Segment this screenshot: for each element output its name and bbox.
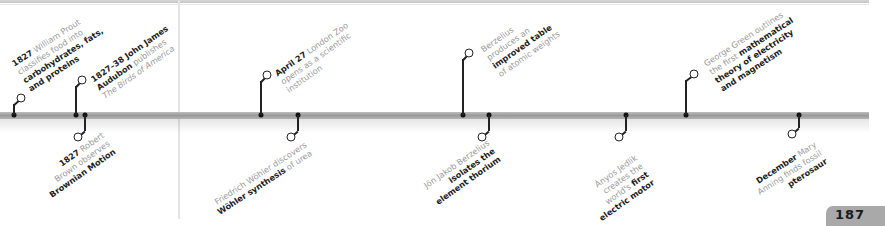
- event-label: Friedrich Wöhler discoversWöhler synthes…: [210, 140, 314, 217]
- connector-line: [488, 115, 490, 131]
- page-number: 187: [826, 206, 885, 226]
- connector-line: [297, 115, 299, 131]
- event-label-text: Friedrich Wöhler discovers: [213, 140, 309, 207]
- open-circle-icon: [287, 133, 296, 142]
- open-circle-icon: [465, 49, 474, 58]
- open-circle-icon: [74, 133, 83, 142]
- event-label: Ányos Jedlikcreates theworld's firstelec…: [580, 153, 656, 223]
- connector-line: [798, 115, 800, 128]
- timeline-bar-shadow: [0, 119, 869, 133]
- event-label: April 27 London Zooopens as a scientific…: [273, 20, 361, 94]
- connector-line: [685, 80, 687, 115]
- connector-line: [260, 81, 262, 115]
- connector-line: [462, 59, 464, 115]
- page-top-border: [0, 0, 869, 3]
- timeline-bar: [0, 112, 869, 119]
- event-label-line: Friedrich Wöhler discovers: [210, 140, 308, 209]
- open-circle-icon: [788, 130, 797, 139]
- event-label: George Green outlinesthe first mathemati…: [702, 7, 806, 94]
- open-circle-icon: [263, 71, 272, 80]
- event-label: December MaryAnning finds fossilpterosau…: [750, 139, 829, 205]
- open-circle-icon: [615, 133, 624, 142]
- connector-line: [75, 86, 77, 115]
- event-label: Jön Jakob Berzeliusisolates theelement t…: [422, 138, 502, 207]
- event-label-line: Wöhler synthesis of urea: [215, 148, 313, 217]
- event-label: Berzeliusproduces animproved tableof ato…: [479, 4, 562, 79]
- open-circle-icon: [690, 70, 699, 79]
- connector-line: [625, 115, 627, 131]
- open-circle-icon: [78, 76, 87, 85]
- open-circle-icon: [17, 94, 26, 103]
- connector-line: [84, 115, 86, 131]
- page-top-rule: [0, 4, 869, 5]
- year-divider: [178, 0, 180, 219]
